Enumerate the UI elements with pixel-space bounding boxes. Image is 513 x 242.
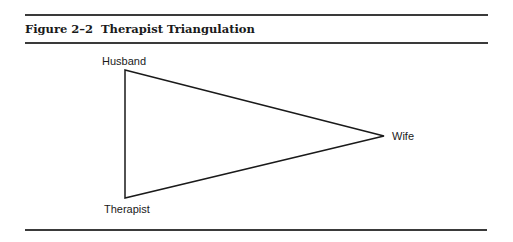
triangulation-diagram xyxy=(0,0,513,242)
node-husband: Husband xyxy=(102,55,146,67)
triangle-shape xyxy=(125,70,384,198)
node-wife: Wife xyxy=(392,130,414,142)
node-therapist: Therapist xyxy=(104,203,150,215)
bottom-rule xyxy=(25,229,487,231)
